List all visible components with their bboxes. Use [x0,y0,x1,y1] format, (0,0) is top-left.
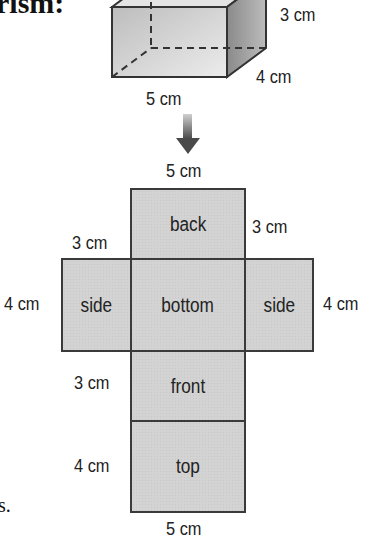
net-right-side-height-label: 4 cm [323,293,358,315]
rectangular-prism-figure [0,0,372,90]
face-label: side [81,294,113,317]
face-label: top [176,455,200,478]
net-face-top: top [130,420,246,513]
net-face-bottom: bottom [130,258,246,352]
net-bottom-width-label: 5 cm [166,518,201,540]
net-back-right-height-label: 3 cm [252,216,287,238]
prism-height-label: 3 cm [280,4,315,26]
net-face-back: back [130,188,246,260]
net-front-height-label: 3 cm [74,372,109,394]
arrow-down-icon [170,112,206,160]
prism-depth-label: 4 cm [256,66,291,88]
face-label: side [263,294,295,317]
net-face-side-left: side [61,258,132,352]
face-label: bottom [162,294,215,317]
trailing-text-fragment: s. [0,494,11,517]
net-face-front: front [130,350,246,422]
face-label: back [170,213,206,236]
net-top-width-label: 5 cm [166,160,201,182]
face-label: front [171,375,205,398]
net-left-side-height-label: 4 cm [4,293,39,315]
net-top-height-label: 4 cm [74,455,109,477]
net-back-left-height-label: 3 cm [72,232,107,254]
net-face-side-right: side [244,258,314,352]
prism-width-label: 5 cm [146,88,181,110]
